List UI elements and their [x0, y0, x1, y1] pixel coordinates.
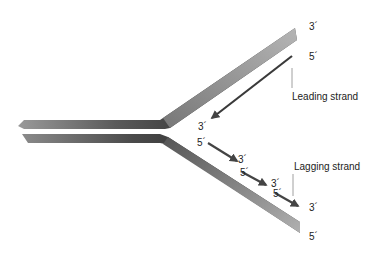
parent-strand-top — [18, 28, 297, 129]
label-leading-3prime: 3´ — [198, 121, 207, 132]
label-top-5prime: 5´ — [309, 51, 318, 62]
label-lag1-5prime: 5´ — [197, 137, 206, 148]
label-bottom-5prime: 5´ — [309, 231, 318, 242]
replication-fork-diagram: 3´ 5´ Leading strand 3´ 5´ 3´ 5´ 3´ 5´ L… — [0, 0, 382, 253]
lagging-fragment-1 — [208, 143, 237, 161]
parent-strand-upper-branch — [163, 28, 297, 128]
label-lag3-5prime: 5´ — [273, 188, 282, 199]
label-lag1-3prime: 3´ — [238, 154, 247, 165]
label-lag3-3prime: 3´ — [309, 202, 318, 213]
label-leading-strand: Leading strand — [292, 91, 358, 102]
label-lagging-strand: Lagging strand — [294, 161, 360, 172]
parent-strand-bottom — [22, 134, 300, 233]
label-top-3prime: 3´ — [309, 21, 318, 32]
label-lag2-5prime: 5´ — [240, 167, 249, 178]
